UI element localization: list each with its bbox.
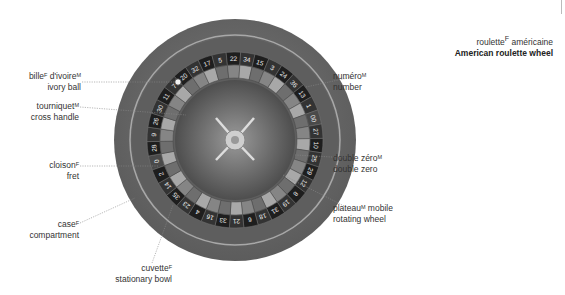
label-cross-handle: tourniquetM cross handle — [31, 101, 79, 123]
label-fret: cloisonF fret — [49, 160, 79, 182]
label-rotating-wheel: plateauM mobile rotating wheel — [333, 203, 393, 225]
svg-text:21: 21 — [232, 218, 240, 225]
svg-text:10: 10 — [313, 141, 320, 149]
ivory-ball-shape — [175, 79, 181, 85]
svg-text:22: 22 — [230, 55, 238, 62]
svg-text:27: 27 — [312, 128, 320, 136]
label-stationary-bowl: cuvetteF stationary bowl — [115, 263, 172, 285]
diagram-title: rouletteF américaine American roulette w… — [455, 34, 553, 59]
svg-text:34: 34 — [243, 55, 252, 63]
label-double-zero: double zéroM double zero — [333, 153, 382, 175]
page-edge-mark — [561, 0, 562, 14]
svg-text:33: 33 — [219, 217, 228, 225]
svg-text:28: 28 — [150, 144, 158, 152]
label-compartment: caseF compartment — [29, 219, 79, 241]
label-ivory-ball: billeF d'ivoireM ivory ball — [29, 71, 81, 93]
label-number: numéroM number — [333, 71, 366, 93]
